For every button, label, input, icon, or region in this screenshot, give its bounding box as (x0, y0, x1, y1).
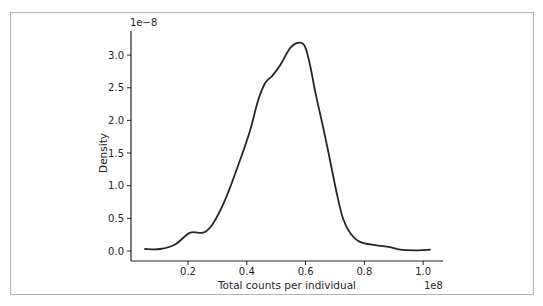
y-tick-labels: 0.00.51.01.52.02.53.0 (108, 50, 131, 257)
x-tick-label: 0.6 (298, 266, 314, 277)
density-chart: 0.00.51.01.52.02.53.0 0.20.40.60.81.0 1e… (0, 0, 543, 306)
y-tick-label: 0.5 (108, 213, 124, 224)
y-tick-label: 1.0 (108, 180, 124, 191)
y-offset-label: 1e−8 (130, 17, 157, 28)
x-tick-label: 0.2 (180, 266, 196, 277)
y-tick-label: 1.5 (108, 148, 124, 159)
axes (131, 31, 443, 261)
x-offset-label: 1e8 (424, 280, 443, 291)
y-tick-label: 0.0 (108, 246, 124, 257)
x-tick-labels: 0.20.40.60.81.0 (180, 261, 431, 277)
y-tick-label: 2.5 (108, 82, 124, 93)
x-tick-label: 0.4 (239, 266, 255, 277)
y-axis-label: Density (97, 133, 109, 173)
x-tick-label: 1.0 (415, 266, 431, 277)
x-tick-label: 0.8 (356, 266, 372, 277)
x-axis-label: Total counts per individual (217, 279, 356, 291)
density-curve (145, 43, 430, 251)
y-tick-label: 3.0 (108, 50, 124, 61)
y-tick-label: 2.0 (108, 115, 124, 126)
